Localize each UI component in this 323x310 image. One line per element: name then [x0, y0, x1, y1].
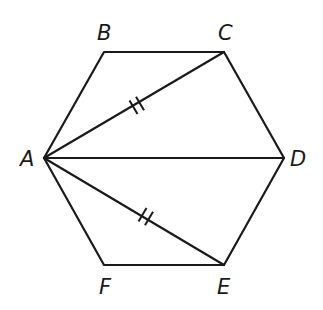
vertex-label-f: F: [99, 275, 112, 299]
diagonal-ae: [44, 158, 224, 265]
diagonal-ac: [44, 52, 224, 158]
vertex-label-e: E: [217, 275, 231, 299]
vertex-label-a: A: [18, 147, 34, 171]
vertex-label-b: B: [97, 21, 111, 45]
hexagon-diagram: B C A D F E: [0, 0, 323, 310]
vertex-label-d: D: [290, 147, 306, 171]
vertex-label-c: C: [218, 21, 233, 45]
